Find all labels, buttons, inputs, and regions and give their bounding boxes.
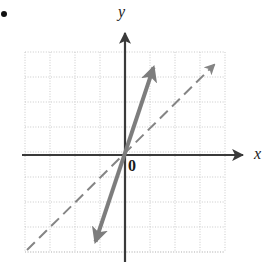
origin-label: 0 [128,158,136,174]
dashed-reference-line [27,65,214,250]
coordinate-plane-canvas [0,0,267,263]
coordinate-plane-figure: y x 0 [0,0,267,263]
y-axis-label: y [118,4,125,20]
x-axis-label: x [254,146,261,162]
